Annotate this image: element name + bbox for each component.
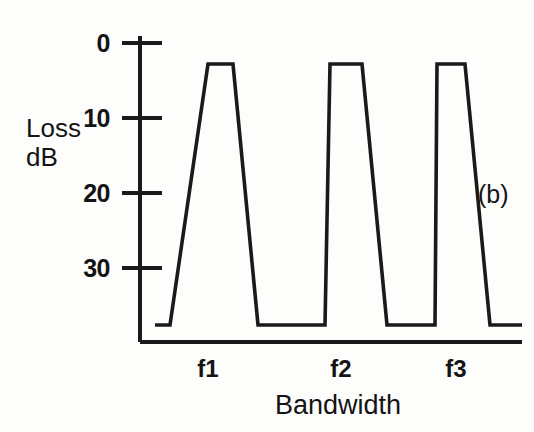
x-axis-title: Bandwidth bbox=[275, 390, 401, 421]
panel-label: (b) bbox=[478, 180, 509, 209]
loss-response-curve bbox=[155, 64, 522, 325]
x-tick-label-f1: f1 bbox=[197, 355, 218, 383]
y-tick-label-30: 30 bbox=[60, 256, 110, 281]
figure-panel-b: 0 10 20 30 Loss dB f1 f2 f3 Bandwidth (b… bbox=[0, 0, 534, 432]
y-axis-title-line-1: Loss bbox=[26, 114, 81, 143]
y-tick-label-0: 0 bbox=[60, 31, 110, 56]
y-axis-title-line-2: dB bbox=[26, 143, 81, 172]
y-axis-title: Loss dB bbox=[26, 114, 81, 172]
y-tick-label-20: 20 bbox=[60, 181, 110, 206]
x-tick-label-f3: f3 bbox=[445, 355, 466, 383]
x-tick-label-f2: f2 bbox=[330, 355, 351, 383]
